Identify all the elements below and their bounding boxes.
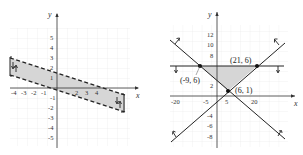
x-arrow-icon xyxy=(291,94,295,97)
vertex-point xyxy=(255,64,259,68)
y-tick: -2 xyxy=(48,104,53,111)
point-label: (21, 6) xyxy=(230,56,252,65)
y-tick: 3 xyxy=(50,54,53,61)
x-tick: 5 xyxy=(225,98,228,105)
y-tick: 5 xyxy=(50,34,53,41)
point-label: (-9, 6) xyxy=(180,76,200,85)
y-arrow-icon xyxy=(55,13,58,17)
left-graph: x y -4 -3 -2 -1 2 3 4 5 4 3 2 1 -1 -2 -3… xyxy=(10,10,140,148)
y-tick: 2 xyxy=(50,64,53,71)
x-axis-label: x xyxy=(135,91,140,100)
x-arrow-icon xyxy=(135,86,139,89)
x-tick: 3 xyxy=(85,89,88,96)
y-tick: 10 xyxy=(207,41,214,48)
y-tick: -4 xyxy=(207,112,213,119)
x-tick: -20 xyxy=(171,98,180,105)
figure-canvas: x y -4 -3 -2 -1 2 3 4 5 4 3 2 1 -1 -2 -3… xyxy=(0,0,303,155)
y-axis-label: y xyxy=(47,10,52,19)
y-tick: -5 xyxy=(48,134,53,141)
y-tick: 8 xyxy=(210,52,213,59)
y-tick: -8 xyxy=(207,133,212,140)
y-tick: 12 xyxy=(207,31,214,38)
y-tick: 1 xyxy=(50,74,53,81)
x-tick: -2 xyxy=(31,89,36,96)
y-axis-label: y xyxy=(207,10,212,19)
y-tick: -3 xyxy=(48,114,53,121)
y-tick: 2 xyxy=(210,82,213,89)
vertex-point xyxy=(226,89,230,93)
x-tick: 20 xyxy=(251,98,258,105)
y-tick: -1 xyxy=(50,94,55,101)
x-axis-label: x xyxy=(293,99,298,108)
x-tick: -1 xyxy=(41,89,46,96)
right-graph: x y -20 -5 5 20 12 10 8 2 -4 -6 -8 (-9, … xyxy=(170,10,298,148)
y-arrow-icon xyxy=(215,12,218,16)
x-tick: -5 xyxy=(203,98,208,105)
point-label: (6, 1) xyxy=(235,86,253,95)
x-tick: 2 xyxy=(75,89,78,96)
y-tick: -6 xyxy=(207,122,213,129)
x-tick: -4 xyxy=(11,89,17,96)
x-tick: -3 xyxy=(21,89,26,96)
y-tick: -4 xyxy=(48,124,54,131)
